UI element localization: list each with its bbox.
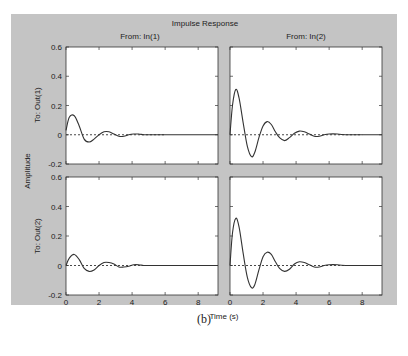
- x-tick-label: 0: [228, 298, 233, 307]
- axes-box: [66, 47, 218, 164]
- y-tick-label: 0.2: [51, 232, 63, 241]
- y-tick-label: 0.6: [51, 43, 63, 52]
- x-tick-label: 4: [130, 298, 135, 307]
- figure-caption: (b): [0, 312, 408, 327]
- subplot-out2-from-in1: 02468-0.200.20.40.6: [48, 173, 218, 307]
- x-tick-label: 6: [327, 298, 332, 307]
- column-title-in2: From: In(2): [286, 32, 326, 41]
- x-tick-label: 8: [196, 298, 201, 307]
- y-tick-label: -0.2: [48, 160, 62, 169]
- y-tick-label: -0.2: [48, 291, 62, 300]
- y-tick-label: 0: [58, 262, 63, 271]
- axes-box: [230, 177, 382, 295]
- subplot-out1-from-in1: -0.200.20.40.6: [48, 43, 218, 169]
- x-tick-label: 4: [294, 298, 299, 307]
- y-tick-label: 0.4: [51, 203, 63, 212]
- x-tick-label: 6: [163, 298, 168, 307]
- figure-title: Impulse Response: [172, 19, 239, 28]
- y-tick-label: 0: [58, 131, 63, 140]
- axes-box: [66, 177, 218, 295]
- subplot-out2-from-in2: 02468: [228, 177, 382, 307]
- x-tick-label: 0: [64, 298, 69, 307]
- y-tick-label: 0.4: [51, 72, 63, 81]
- subplot-out1-from-in2: [230, 47, 382, 164]
- row-title-out1: To: Out(1): [33, 87, 42, 123]
- x-tick-label: 8: [360, 298, 365, 307]
- x-tick-label: 2: [97, 298, 102, 307]
- row-title-out2: To: Out(2): [33, 218, 42, 254]
- y-tick-label: 0.6: [51, 173, 63, 182]
- x-tick-label: 2: [261, 298, 266, 307]
- column-title-in1: From: In(1): [120, 32, 160, 41]
- y-tick-label: 0.2: [51, 102, 63, 111]
- y-axis-label: Amplitude: [23, 153, 32, 189]
- axes-box: [230, 47, 382, 164]
- impulse-response-figure: Impulse Response From: In(1) From: In(2)…: [0, 0, 408, 356]
